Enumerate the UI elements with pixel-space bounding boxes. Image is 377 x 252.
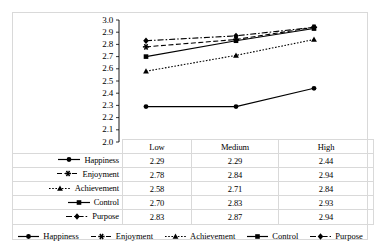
legend-key-purpose-icon [65,212,89,221]
table-cell: 2.44 [279,154,374,168]
plot-area: 3.02.92.82.72.62.52.42.32.22.12.0 [13,13,367,144]
table-cell: 2.58 [123,182,192,196]
plot-svg [13,13,367,144]
table-cell: 2.71 [192,182,279,196]
series-line [146,29,314,57]
legend-key-achievement-icon [48,184,72,193]
table-column-header: Medium [192,140,279,154]
data-point-marker [256,234,261,239]
chart-legend: HappinessEnjoymentAchievementControlPurp… [13,229,367,243]
y-axis-tick-label: 2.9 [87,28,113,37]
y-axis-tick-label: 2.7 [87,52,113,61]
table-row-label: Purpose [90,211,119,221]
legend-key-enjoyment-icon [56,169,80,178]
y-axis-tick-label: 3.0 [87,16,113,25]
data-point-marker [26,234,31,239]
legend-key-control-icon [246,232,269,241]
table-cell: 2.94 [279,168,374,182]
table-row: Enjoyment2.782.842.94 [13,168,374,182]
table-row: Control2.702.832.93 [13,196,374,210]
data-point-marker [173,233,179,238]
table-row-header: Enjoyment [13,168,123,182]
data-point-marker [318,233,324,239]
data-point-marker [144,104,149,109]
table-column-header: High [279,140,374,154]
legend-key-happiness-icon [57,155,81,164]
y-axis-tick-label: 2.6 [87,64,113,73]
series-line [146,88,314,106]
data-point-marker [312,86,317,91]
table-cell: 2.29 [123,154,192,168]
chart-figure: 3.02.92.82.72.62.52.42.32.22.12.0 LowMed… [12,12,368,240]
table-row-header: Purpose [13,210,123,224]
table-cell: 2.83 [123,210,192,224]
data-point-marker [144,54,149,59]
y-axis-tick-label: 2.8 [87,40,113,49]
y-axis-tick-label: 2.2 [87,113,113,122]
legend-item-label: Happiness [41,231,78,241]
table-cell: 2.83 [192,196,279,210]
legend-key-purpose-icon [309,232,332,241]
series-happiness [144,86,317,109]
table-cell: 2.29 [192,154,279,168]
table-cell: 2.70 [123,196,192,210]
data-point-marker [233,33,239,39]
legend-item-happiness: Happiness [17,231,78,241]
data-point-marker [98,233,104,238]
data-point-marker [64,171,70,176]
y-axis-tick-label: 2.5 [87,77,113,86]
data-point-marker [67,157,72,162]
legend-item-control: Control [246,231,298,241]
table-row-label: Happiness [82,155,119,165]
legend-key-control-icon [67,198,91,207]
data-point-marker [234,104,239,109]
data-point-marker [74,213,80,219]
data-table: LowMediumHighHappiness2.292.292.44Enjoym… [13,139,374,225]
table-cell: 2.93 [279,196,374,210]
legend-item-purpose: Purpose [309,231,362,241]
table-header-row: LowMediumHigh [13,140,374,154]
data-point-marker [143,68,149,73]
table-column-header: Low [123,140,192,154]
y-axis-tick-label: 2.1 [87,125,113,134]
series-enjoyment [143,25,317,50]
legend-key-achievement-icon [164,232,187,241]
series-purpose [143,24,317,44]
table-cell: 2.87 [192,210,279,224]
table-row-label: Enjoyment [81,169,119,179]
table-cell: 2.78 [123,168,192,182]
legend-item-label: Achievement [188,231,235,241]
data-point-marker [76,200,81,205]
table-row: Happiness2.292.292.44 [13,154,374,168]
data-point-marker [143,38,149,44]
series-line [146,27,314,40]
data-point-marker [143,44,149,49]
legend-item-label: Enjoyment [114,231,153,241]
table-cell: 2.94 [279,210,374,224]
data-point-marker [234,38,239,43]
legend-item-label: Purpose [333,231,362,241]
legend-key-enjoyment-icon [90,232,113,241]
table-row-label: Control [92,197,119,207]
table-row-label: Achievement [73,183,119,193]
table-cell: 2.84 [279,182,374,196]
legend-item-achievement: Achievement [164,231,235,241]
table-row: Purpose2.832.872.94 [13,210,374,224]
legend-key-happiness-icon [17,232,40,241]
table-row-header: Happiness [13,154,123,168]
table-row-header: Achievement [13,182,123,196]
table-row: Achievement2.582.712.84 [13,182,374,196]
table-corner-cell [13,140,123,154]
legend-item-enjoyment: Enjoyment [90,231,153,241]
y-axis-tick-label: 2.4 [87,89,113,98]
table-cell: 2.84 [192,168,279,182]
legend-item-label: Control [270,231,298,241]
table-row-header: Control [13,196,123,210]
y-axis-tick-label: 2.3 [87,101,113,110]
data-point-marker [311,37,317,42]
